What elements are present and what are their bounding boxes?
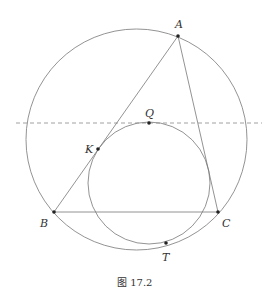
label-Q: Q [145,107,154,120]
figure-caption: 图 17.2 [117,277,152,288]
point-T [164,241,168,245]
label-A: A [174,18,183,31]
point-B [52,210,56,214]
point-K [96,147,100,151]
label-B: B [39,217,48,230]
point-A [176,34,180,38]
point-C [216,210,220,214]
label-T: T [162,251,171,264]
geometry-figure: A B C K Q T 图 17.2 [0,0,275,296]
point-Q [147,121,151,125]
tangent-circle [88,122,210,244]
label-C: C [222,217,231,230]
label-K: K [84,143,94,156]
segment-AC [178,36,218,212]
circumcircle [26,29,247,250]
segment-AB [54,36,178,212]
